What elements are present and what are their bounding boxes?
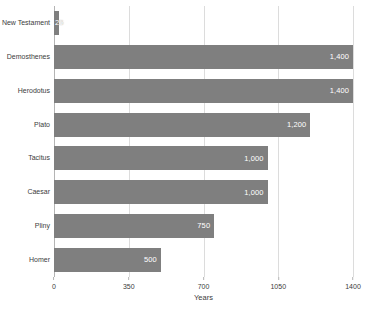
gridline-1400	[353, 6, 354, 277]
x-axis-tick-mark	[278, 277, 279, 280]
category-label: Homer	[0, 256, 50, 263]
category-axis: New TestamentDemosthenesHerodotusPlatoTa…	[0, 6, 50, 277]
x-axis-tick-label: 700	[198, 283, 210, 290]
x-axis-tick-mark	[352, 277, 353, 280]
x-axis-tick: 1050	[270, 277, 286, 290]
plot-area: 251,4001,4001,2001,0001,000750500	[54, 6, 353, 277]
x-axis-tick-label: 0	[52, 283, 56, 290]
bar-row: 25	[54, 11, 353, 35]
bar[interactable]: 1,400	[54, 45, 353, 69]
bar-value-label: 1,200	[287, 121, 306, 129]
x-axis-tick-mark	[203, 277, 204, 280]
category-label: Pliny	[0, 222, 50, 229]
category-label: Tacitus	[0, 154, 50, 161]
bar-row: 1,400	[54, 79, 353, 103]
bar-row: 750	[54, 214, 353, 238]
x-axis-tick-label: 1400	[345, 283, 361, 290]
bar-row: 1,000	[54, 146, 353, 170]
bar-value-label: 1,000	[244, 155, 263, 163]
bar[interactable]: 1,400	[54, 79, 353, 103]
x-axis-tick: 1400	[345, 277, 361, 290]
bar[interactable]: 1,200	[54, 113, 310, 137]
bar-row: 1,200	[54, 113, 353, 137]
bar-row: 1,400	[54, 45, 353, 69]
x-axis-tick: 350	[123, 277, 135, 290]
bar-value-label: 25	[55, 19, 64, 27]
bar[interactable]: 1,000	[54, 146, 268, 170]
bar-value-label: 1,400	[330, 87, 349, 95]
category-label: Herodotus	[0, 87, 50, 94]
bar-value-label: 1,400	[330, 53, 349, 61]
x-axis-title: Years	[54, 294, 353, 302]
x-axis-tick: 700	[198, 277, 210, 290]
x-axis-tick-label: 350	[123, 283, 135, 290]
bar-chart: New TestamentDemosthenesHerodotusPlatoTa…	[0, 0, 377, 312]
bar-value-label: 750	[197, 222, 210, 230]
x-axis-tick: 0	[52, 277, 56, 290]
bar-value-label: 500	[144, 256, 157, 264]
x-axis-tick-mark	[54, 277, 55, 280]
category-label: New Testament	[0, 19, 50, 26]
category-label: Caesar	[0, 188, 50, 195]
bar-value-label: 1,000	[244, 189, 263, 197]
bar-row: 500	[54, 248, 353, 272]
category-label: Demosthenes	[0, 53, 50, 60]
bar[interactable]: 1,000	[54, 180, 268, 204]
x-axis-tick-label: 1050	[270, 283, 286, 290]
bar-row: 1,000	[54, 180, 353, 204]
bars-layer: 251,4001,4001,2001,0001,000750500	[54, 6, 353, 277]
bar[interactable]: 25	[54, 11, 59, 35]
bar[interactable]: 500	[54, 248, 161, 272]
x-axis-tick-mark	[128, 277, 129, 280]
category-label: Plato	[0, 121, 50, 128]
bar[interactable]: 750	[54, 214, 214, 238]
